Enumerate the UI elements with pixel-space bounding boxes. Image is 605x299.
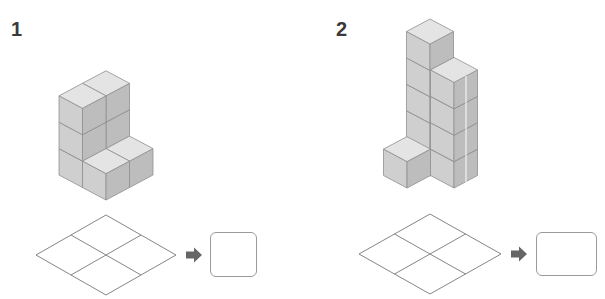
exercise-figures (0, 0, 605, 299)
cube-stack-1 (59, 71, 153, 200)
arrow-right-icon (186, 248, 202, 263)
problem-1-answer-box[interactable] (210, 232, 257, 277)
top-view-grid-2 (359, 214, 501, 294)
arrow-right-icon (511, 247, 527, 262)
problem-2-answer-box[interactable] (536, 232, 597, 276)
cube-stack-2 (384, 19, 478, 188)
top-view-grid-1 (36, 215, 176, 295)
